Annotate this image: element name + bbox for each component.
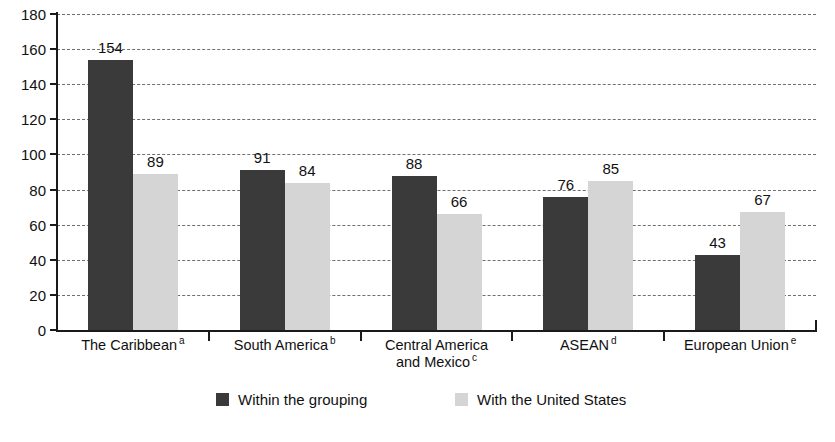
y-axis-tick-label: 40	[0, 253, 46, 268]
bar	[240, 170, 285, 330]
category-label-line: European Unione	[630, 337, 835, 354]
y-axis-tick-label: 160	[0, 42, 46, 57]
x-axis-end-cap	[815, 320, 817, 332]
category-label-line: and Mexicoc	[327, 354, 547, 371]
y-axis-tick-label: 80	[0, 183, 46, 198]
category-footnote-marker: d	[609, 335, 617, 346]
y-axis-tick-label: 120	[0, 112, 46, 127]
bar-value-label: 76	[536, 177, 596, 192]
bar-value-label: 43	[688, 235, 748, 250]
y-axis-tick	[50, 259, 58, 261]
bar-value-label: 154	[80, 40, 140, 55]
gridline	[57, 119, 816, 120]
y-axis-tick	[50, 294, 58, 296]
category-footnote-marker: c	[470, 352, 477, 363]
y-axis-tick-label: 100	[0, 147, 46, 162]
y-axis-tick-label: 180	[0, 7, 46, 22]
bar	[285, 183, 330, 330]
bar	[437, 214, 482, 330]
y-axis-tick	[50, 83, 58, 85]
y-axis-tick	[50, 224, 58, 226]
bar-value-label: 84	[277, 163, 337, 178]
legend-label: Within the grouping	[238, 392, 367, 407]
bar-value-label: 88	[384, 156, 444, 171]
y-axis-tick	[50, 13, 58, 15]
y-axis-tick	[50, 118, 58, 120]
category-footnote-marker: e	[789, 335, 797, 346]
bar-value-label: 67	[733, 192, 793, 207]
y-axis-tick-label: 0	[0, 323, 46, 338]
bar	[695, 255, 740, 330]
legend-label: With the United States	[477, 392, 626, 407]
y-axis-tick	[50, 153, 58, 155]
bar-chart: 020406080100120140160180 154899184886676…	[0, 0, 835, 442]
x-axis-line	[56, 330, 817, 332]
y-axis-tick	[50, 189, 58, 191]
y-axis-tick-label: 20	[0, 288, 46, 303]
bar-value-label: 85	[581, 161, 641, 176]
legend-item-with-the-united-states: With the United States	[455, 388, 626, 410]
gridline	[57, 84, 816, 85]
y-axis-tick	[50, 48, 58, 50]
bar	[88, 60, 133, 330]
bar	[740, 212, 785, 330]
gridline	[57, 14, 816, 15]
y-axis-tick	[50, 329, 58, 331]
legend-item-within-the-grouping: Within the grouping	[216, 388, 367, 410]
legend-swatch-icon	[455, 393, 468, 406]
y-axis-line	[56, 12, 58, 332]
chart-legend: Within the grouping With the United Stat…	[0, 388, 835, 412]
category-label: European Unione	[630, 337, 835, 354]
y-axis-tick-label: 140	[0, 77, 46, 92]
bar	[588, 181, 633, 330]
bar	[543, 197, 588, 330]
bar	[133, 174, 178, 330]
y-axis-tick-label: 60	[0, 218, 46, 233]
gridline	[57, 49, 816, 50]
bar-value-label: 66	[429, 194, 489, 209]
bar-value-label: 89	[125, 154, 185, 169]
legend-swatch-icon	[216, 393, 229, 406]
